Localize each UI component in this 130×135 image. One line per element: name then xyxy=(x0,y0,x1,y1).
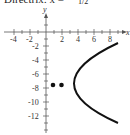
x-tick: 4 xyxy=(76,35,80,44)
vertex-point xyxy=(51,83,56,88)
y-axis-label: y xyxy=(42,5,47,14)
x-tick: 6 xyxy=(92,35,96,44)
x-tick: -4 xyxy=(10,35,17,44)
focus-point xyxy=(59,83,64,88)
x-axis: x -4 -2 2 4 6 8 xyxy=(4,28,130,44)
x-tick: 2 xyxy=(60,35,64,44)
y-tick: -8 xyxy=(32,84,39,93)
y-tick: -12 xyxy=(28,112,39,121)
y-tick: -10 xyxy=(28,98,39,107)
y-tick: -6 xyxy=(32,70,39,79)
x-tick: 8 xyxy=(108,35,112,44)
plot-area: x -4 -2 2 4 6 8 y xyxy=(0,0,130,135)
y-axis: y -2 -4 -6 -8 -10 -12 xyxy=(28,5,49,133)
parabola-curve xyxy=(74,43,118,123)
y-tick: -4 xyxy=(32,56,39,65)
x-axis-label: x xyxy=(125,28,130,37)
y-tick: -2 xyxy=(32,42,39,51)
